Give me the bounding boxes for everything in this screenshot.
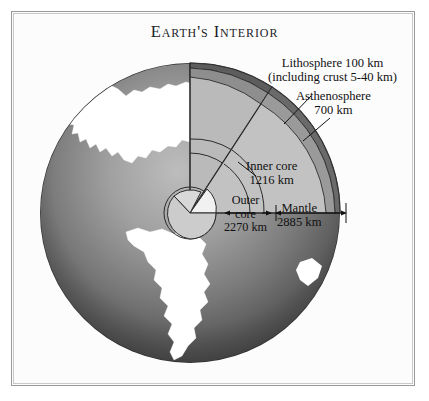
asthenosphere-label: Asthenosphere 700 km — [296, 90, 371, 117]
outer-core-label-line3: 2270 km — [224, 221, 267, 235]
mantle-label: Mantle 2885 km — [277, 202, 321, 229]
mantle-label-line1: Mantle — [277, 202, 321, 216]
lithosphere-label-line1: Lithosphere 100 km — [268, 57, 397, 71]
outer-core-label: Outer core 2270 km — [224, 194, 267, 235]
asthenosphere-label-line1: Asthenosphere — [296, 90, 371, 104]
outer-core-label-line2: core — [224, 208, 267, 222]
inner-core-label-line1: Inner core — [246, 160, 297, 174]
inner-core-label: Inner core 1216 km — [246, 160, 297, 187]
mantle-label-line2: 2885 km — [277, 216, 321, 230]
lithosphere-label: Lithosphere 100 km (including crust 5-40… — [268, 57, 397, 84]
inner-core-label-line2: 1216 km — [246, 174, 297, 188]
asthenosphere-label-line2: 700 km — [296, 104, 371, 118]
earth-interior-figure: Earth's Interior — [0, 0, 429, 401]
outer-core-label-line1: Outer — [224, 194, 267, 208]
lithosphere-label-line2: (including crust 5-40 km) — [268, 71, 397, 85]
